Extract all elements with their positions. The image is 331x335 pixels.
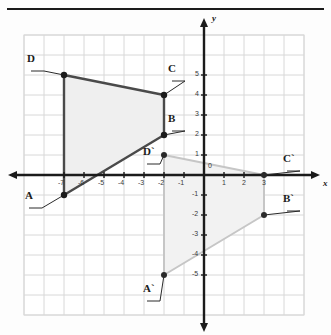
y-tick--3: -3 — [192, 230, 198, 237]
point-label-A-prime: A` — [143, 282, 155, 294]
point-label-B: B — [168, 112, 175, 124]
x-tick-3: 3 — [262, 179, 266, 186]
x-tick--6: -6 — [78, 179, 84, 186]
coordinate-plane-plot — [0, 0, 331, 335]
x-tick--4: -4 — [118, 179, 124, 186]
vertex-B — [161, 132, 167, 138]
y-tick-3: 3 — [195, 110, 199, 117]
vertex-C-prime — [261, 172, 267, 178]
origin-label: 0 — [208, 162, 212, 169]
x-tick-2: 2 — [242, 179, 246, 186]
point-label-A: A — [25, 189, 33, 201]
y-tick-1: 1 — [195, 150, 199, 157]
y-tick-2: 2 — [195, 130, 199, 137]
point-label-D-prime: D` — [143, 145, 155, 157]
point-label-B-prime: B` — [283, 192, 294, 204]
x-tick--7: -7 — [58, 179, 64, 186]
point-label-D: D — [27, 52, 35, 64]
y-tick--2: -2 — [192, 210, 198, 217]
y-tick-4: 4 — [195, 90, 199, 97]
x-tick--1: -1 — [178, 179, 184, 186]
x-tick--5: -5 — [98, 179, 104, 186]
y-axis-label: y — [212, 13, 216, 23]
x-axis-label: x — [323, 178, 328, 188]
figure-canvas: -7-6-5-4-3-2-112354321-1-2-3-4-50 DCBAD`… — [0, 0, 331, 335]
vertex-D — [61, 72, 67, 78]
y-tick--1: -1 — [192, 190, 198, 197]
point-label-C: C — [168, 62, 176, 74]
y-tick--4: -4 — [192, 250, 198, 257]
vertex-A-prime — [161, 272, 167, 278]
vertex-D-prime — [161, 152, 167, 158]
vertex-A — [61, 192, 67, 198]
x-tick-1: 1 — [222, 179, 226, 186]
y-tick-5: 5 — [195, 70, 199, 77]
x-tick--3: -3 — [138, 179, 144, 186]
point-label-C-prime: C` — [283, 152, 295, 164]
vertex-C — [161, 92, 167, 98]
y-tick--5: -5 — [192, 270, 198, 277]
vertex-B-prime — [261, 212, 267, 218]
x-tick--2: -2 — [158, 179, 164, 186]
